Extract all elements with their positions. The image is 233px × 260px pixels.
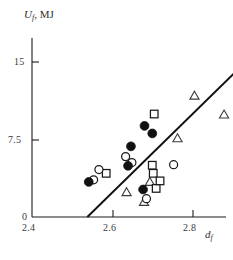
data-point-square <box>156 177 164 185</box>
x-axis-title: df <box>205 228 213 242</box>
data-point-square <box>152 185 160 193</box>
data-point-filled-circle <box>84 178 93 187</box>
x-tick-label-2.6: 2.6 <box>103 222 116 233</box>
series-open-triangle <box>122 91 229 205</box>
data-point-triangle <box>190 91 199 99</box>
data-point-filled-circle <box>139 185 148 194</box>
data-point-filled-circle <box>124 161 133 170</box>
data-point-filled-circle <box>140 121 149 130</box>
data-point-open-circle <box>170 161 178 169</box>
y-tick-label-15: 15 <box>14 56 24 67</box>
trend-line-group <box>87 66 233 217</box>
fit-line <box>87 66 233 217</box>
scatter-plot-figure: Uf, MJ df 15 7.5 0 2.4 2.6 2.8 <box>0 0 233 260</box>
x-tick-label-2.4: 2.4 <box>22 222 35 233</box>
data-point-open-circle <box>122 153 130 161</box>
data-point-square <box>149 170 157 178</box>
data-point-open-circle <box>142 195 150 203</box>
data-point-triangle <box>122 188 131 196</box>
data-point-square <box>148 161 156 169</box>
y-axis-title-units: , MJ <box>34 8 54 20</box>
y-axis-title: Uf, MJ <box>24 8 54 22</box>
data-point-filled-circle <box>127 142 136 151</box>
y-axis-title-base: U <box>24 8 32 20</box>
axes-group <box>32 38 226 217</box>
x-axis-title-subscript: f <box>211 233 213 242</box>
y-tick-label-0: 0 <box>22 211 27 222</box>
x-tick-marks <box>113 210 193 217</box>
data-point-square <box>102 170 110 178</box>
data-point-filled-circle <box>148 129 157 138</box>
data-point-triangle <box>173 134 182 142</box>
y-tick-label-7.5: 7.5 <box>8 134 21 145</box>
data-point-square <box>150 110 158 118</box>
data-point-open-circle <box>95 166 103 174</box>
y-tick-marks <box>32 62 39 140</box>
plot-canvas <box>0 0 233 260</box>
x-tick-label-2.8: 2.8 <box>183 222 196 233</box>
data-point-triangle <box>219 110 228 118</box>
